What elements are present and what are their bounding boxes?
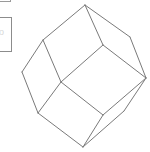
edge-line bbox=[38, 113, 83, 147]
polyhedron-wireframe bbox=[0, 0, 150, 152]
wireframe-edges bbox=[22, 5, 146, 147]
edge-line bbox=[22, 72, 38, 113]
edge-line bbox=[61, 45, 103, 82]
edge-line bbox=[22, 40, 43, 72]
edge-line bbox=[61, 82, 103, 115]
edge-line bbox=[43, 40, 61, 82]
edge-line bbox=[43, 5, 85, 40]
edge-line bbox=[38, 82, 61, 113]
edge-line bbox=[83, 111, 124, 147]
edge-line bbox=[83, 115, 103, 147]
